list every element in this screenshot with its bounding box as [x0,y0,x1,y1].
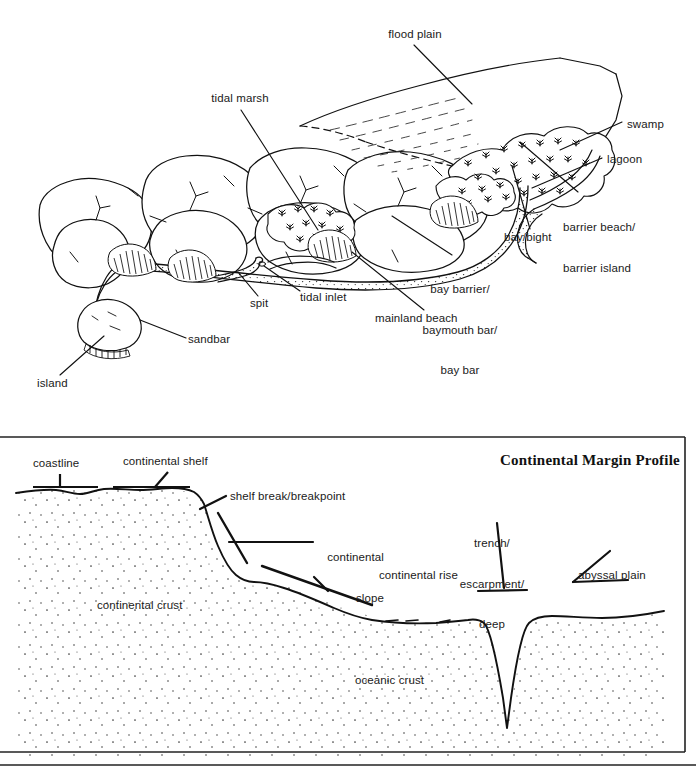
label-abyssal-plain: abyssal plain [578,569,646,583]
label-lagoon: lagoon [607,153,642,167]
label-barrier-beach-line2: barrier island [563,262,635,276]
label-trench-line3: deep [452,618,532,632]
label-bay-barrier-line3: bay bar [414,364,506,378]
label-continental-slope-line2: slope [296,592,384,606]
label-tidal-marsh: tidal marsh [198,92,282,106]
label-tidal-inlet: tidal inlet [300,291,347,305]
label-trench: trench/ escarpment/ deep [452,510,532,659]
label-sandbar: sandbar [188,333,230,347]
panel-title: Continental Margin Profile [500,452,680,469]
label-coastline: coastline [33,457,79,471]
label-island: island [37,377,68,391]
coastal-landforms-diagram: flood plain tidal marsh swamp lagoon bar… [0,0,696,430]
label-mainland-beach: mainland beach [375,312,458,326]
label-bay-barrier-line1: bay barrier/ [414,283,506,297]
label-bay-barrier: bay barrier/ baymouth bar/ bay bar [414,256,506,405]
label-oceanic-crust: oceanic crust [355,674,424,688]
label-continental-shelf: continental shelf [123,455,208,469]
label-continental-crust: continental crust [97,599,182,613]
label-trench-line2: escarpment/ [452,578,532,592]
label-trench-line1: trench/ [452,537,532,551]
label-bay-barrier-line2: baymouth bar/ [414,324,506,338]
label-continental-slope-line1: continental [296,551,384,565]
label-barrier-beach: barrier beach/ barrier island [563,194,635,302]
label-swamp: swamp [627,118,664,132]
figure-root: flood plain tidal marsh swamp lagoon bar… [0,0,696,778]
label-spit: spit [250,297,268,311]
label-shelf-break: shelf break/breakpoint [230,490,345,504]
label-barrier-beach-line1: barrier beach/ [563,221,635,235]
label-continental-slope: continental slope [296,524,384,632]
label-bay-bight: bay/bight [504,231,552,245]
label-flood-plain: flood plain [372,28,458,42]
continental-margin-panel: Continental Margin Profile coastline con… [0,430,696,778]
label-continental-rise: continental rise [379,569,458,583]
